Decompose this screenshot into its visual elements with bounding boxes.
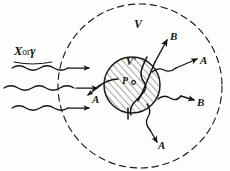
- incident-beams: [4, 66, 74, 111]
- ray-downward-a-label: A: [158, 140, 165, 151]
- incident-wave-3: [12, 106, 68, 111]
- incident-beam-gamma: γ: [30, 44, 35, 58]
- ray-forward-a: [152, 59, 197, 72]
- incident-wave-2: [4, 86, 74, 91]
- incident-beam-label: Xorγ: [14, 45, 35, 58]
- scattering-diagram: Xorγ V V' P A B A B A: [0, 0, 230, 171]
- ray-backscatter-a-label: A: [92, 94, 99, 105]
- ray-downward-a: [146, 104, 157, 142]
- diagram-canvas: [0, 0, 230, 171]
- ray-upper-b-label: B: [170, 31, 177, 42]
- outer-region-label: V: [134, 18, 142, 30]
- ray-forward-a-label: A: [200, 55, 207, 66]
- inner-region-label: V': [126, 57, 136, 68]
- ray-lower-b: [158, 96, 194, 100]
- ray-lower-b-label: B: [197, 97, 204, 108]
- beam-label-underline: [14, 62, 52, 64]
- point-label: P: [122, 76, 128, 86]
